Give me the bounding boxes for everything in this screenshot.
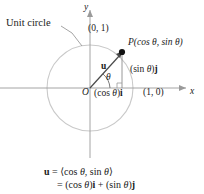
origin-label: O bbox=[82, 88, 89, 98]
eq2-t2-open: (sin bbox=[106, 179, 124, 190]
unit-circle-label: Unit circle bbox=[6, 18, 51, 29]
eq1-equals: = bbox=[52, 166, 58, 177]
cos-unit-vector-i: i bbox=[120, 88, 123, 98]
eq2-unit-vector-i: i bbox=[93, 179, 96, 190]
sin-unit-vector-j: j bbox=[154, 64, 157, 74]
x-axis-label: x bbox=[190, 87, 194, 97]
vector-u-label: u bbox=[101, 62, 106, 72]
cos-open: (cos bbox=[94, 88, 112, 98]
cos-component-label: (cos θ)i bbox=[94, 89, 123, 99]
point-top-label: (0, 1) bbox=[88, 24, 109, 34]
x-axis-arrowhead bbox=[179, 85, 186, 91]
eq1-lhs-u: u bbox=[44, 166, 50, 177]
eq1-rhs-mid: , sin bbox=[85, 166, 104, 177]
eq1-rhs-close: ⟩ bbox=[109, 166, 113, 177]
angle-theta-label: θ bbox=[106, 73, 111, 83]
point-p-dot bbox=[119, 49, 125, 55]
eq2-unit-vector-j: j bbox=[132, 179, 135, 190]
eq1-rhs-open: ⟨cos bbox=[60, 166, 80, 177]
unit-circle-figure: Unit circle y x (0, 1) (1, 0) P(cos θ, s… bbox=[0, 0, 204, 194]
unit-circle-leader-line bbox=[61, 26, 82, 46]
eq2-equals: = bbox=[57, 179, 63, 190]
point-right-label: (1, 0) bbox=[143, 88, 164, 98]
equation-line-1: u = ⟨cos θ, sin θ⟩ bbox=[44, 167, 113, 177]
point-p-label: P(cos θ, sin θ) bbox=[128, 38, 183, 48]
equation-line-2: = (cos θ)i + (sin θ)j bbox=[57, 180, 135, 190]
eq2-plus: + bbox=[98, 179, 104, 190]
sin-open: (sin bbox=[130, 64, 147, 74]
y-axis-label: y bbox=[84, 3, 88, 13]
point-p-text: P(cos θ, sin θ) bbox=[128, 37, 183, 47]
sin-component-label: (sin θ)j bbox=[130, 65, 158, 75]
vector-u-arrow bbox=[90, 55, 120, 88]
eq2-t1-open: (cos bbox=[65, 179, 84, 190]
